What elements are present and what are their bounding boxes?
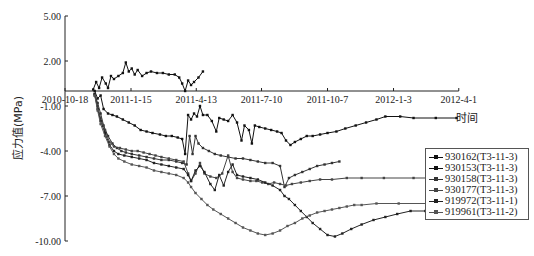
data-point-marker [227,154,229,156]
data-point-marker [165,135,167,137]
data-point-marker [209,183,211,185]
data-point-marker [398,202,400,204]
data-point-marker [341,232,343,234]
data-point-marker [279,165,281,167]
data-point-marker [159,133,161,135]
data-point-marker [311,222,313,224]
data-point-marker [280,132,282,134]
data-point-marker [136,69,138,71]
data-point-marker [276,130,278,132]
data-point-marker [316,165,318,167]
data-point-marker [242,178,244,180]
data-point-marker [279,189,281,191]
data-point-marker [285,139,287,141]
data-point-marker [148,153,150,155]
data-point-marker [153,169,155,171]
data-point-marker [202,114,204,116]
data-point-marker [117,75,119,77]
data-point-marker [288,177,290,179]
data-point-marker [412,117,414,119]
x-tick-label: 2012-4-1 [440,94,477,105]
legend-marker-icon [429,153,443,161]
data-point-marker [197,76,199,78]
data-point-marker [184,90,186,92]
data-point-marker [206,204,208,206]
data-point-marker [208,150,210,152]
data-point-marker [206,114,208,116]
data-point-marker [242,226,244,228]
data-point-marker [168,157,170,159]
y-axis: 5.002.00-1.00-4.00-7.00-10.00 [35,11,68,247]
data-point-marker [279,183,281,185]
data-point-marker [360,204,362,206]
data-point-marker [168,172,170,174]
data-point-marker [111,114,113,116]
data-point-marker [319,133,321,135]
data-point-marker [199,165,201,167]
data-point-marker [98,87,100,89]
data-point-marker [242,175,244,177]
y-tick-label: -4.00 [40,146,61,157]
data-point-marker [187,181,189,183]
data-point-marker [288,198,290,200]
data-point-marker [93,90,95,92]
data-point-marker [227,217,229,219]
data-point-marker [107,87,109,89]
data-point-marker [264,127,266,129]
data-point-marker [331,178,333,180]
data-point-marker [264,162,266,164]
legend: 930162(T3-11-3) 930153(T3-11-3) 930158(T… [425,148,529,220]
data-point-marker [175,159,177,161]
data-point-marker [151,132,153,134]
data-point-marker [123,160,125,162]
data-point-marker [372,219,374,221]
data-point-marker [138,154,140,156]
data-point-marker [93,94,95,96]
data-point-marker [353,204,355,206]
data-point-marker [316,211,318,213]
data-point-marker [160,171,162,173]
data-point-marker [142,151,144,153]
data-point-marker [134,124,136,126]
data-point-marker [187,79,189,81]
data-point-marker [273,181,275,183]
data-point-marker [240,139,242,141]
data-point-marker [323,163,325,165]
data-point-marker [194,192,196,194]
data-point-marker [309,168,311,170]
data-point-marker [134,73,136,75]
legend-marker-icon [429,164,443,172]
data-point-marker [227,171,229,173]
data-point-marker [264,181,266,183]
data-point-marker [187,174,189,176]
legend-item: 930153(T3-11-3) [429,162,525,173]
y-tick-label: -10.00 [35,236,61,247]
series-line [93,94,457,236]
data-point-marker [125,148,127,150]
data-point-marker [128,121,130,123]
data-point-marker [185,163,187,165]
data-point-marker [271,162,273,164]
data-point-marker [365,121,367,123]
legend-label: 930158(T3-11-3) [445,173,518,184]
data-point-marker [182,160,184,162]
data-point-marker [160,163,162,165]
legend-item: 919972(T3-11-1) [429,195,525,206]
data-point-marker [234,222,236,224]
data-point-marker [300,210,302,212]
data-point-marker [215,130,217,132]
data-point-marker [354,124,356,126]
data-point-marker [346,177,348,179]
data-point-marker [202,70,204,72]
data-point-marker [145,156,147,158]
data-point-marker [249,159,251,161]
y-tick-label: 2.00 [44,56,62,67]
data-point-marker [101,76,103,78]
data-point-marker [108,145,110,147]
data-point-marker [331,162,333,164]
data-point-marker [323,210,325,212]
data-point-marker [131,153,133,155]
data-point-marker [396,213,398,215]
data-point-marker [335,130,337,132]
data-point-marker [294,204,296,206]
